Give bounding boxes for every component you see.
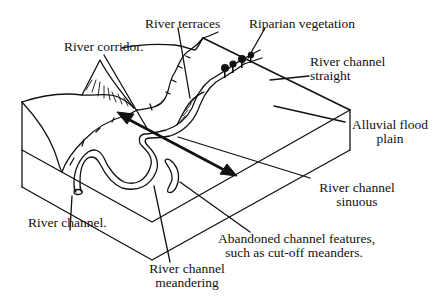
leader-alluvial-flood-plain [274, 106, 345, 122]
leader-river-channel-meandering [154, 186, 170, 262]
leader-river-channel-straight [270, 76, 309, 80]
label-river-channel-straight-line1: River channel [310, 55, 385, 69]
oxbow-lake [165, 159, 178, 192]
label-river-channel-meandering-line2: meandering [146, 276, 228, 290]
label-alluvial-flood-plain-line2: plain [344, 132, 436, 146]
label-river-channel: River channel. [28, 216, 107, 230]
river-bank-inner [80, 64, 244, 192]
label-river-terraces: River terraces [145, 17, 220, 31]
label-river-channel-meandering-line1: River channel [146, 262, 228, 276]
label-river-channel-sinuous-line1: River channel [312, 181, 402, 195]
left-hill [22, 94, 134, 108]
label-river-corridor: River corridor. [64, 40, 143, 54]
river-corridor-diagram: River corridor. River terraces Riparian … [0, 0, 437, 305]
label-abandoned-channel-line1: Abandoned channel features, [218, 232, 370, 246]
label-abandoned-channel-line2: such as cut-off meanders. [218, 246, 370, 260]
label-alluvial-flood-plain-line1: Alluvial flood [344, 118, 436, 132]
label-riparian-vegetation: Riparian vegetation [249, 17, 355, 31]
label-river-channel-sinuous-line2: sinuous [312, 195, 402, 209]
label-river-channel-straight-line2: straight [310, 69, 351, 83]
